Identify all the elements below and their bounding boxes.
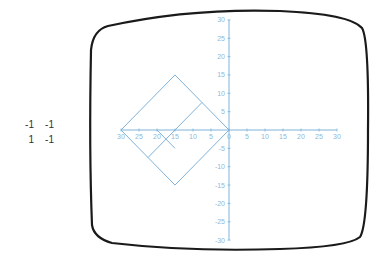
y-tick-label: -20 (215, 200, 225, 207)
crt-screen-plot: 3025201510505101520253030252015105-5-10-… (0, 0, 386, 259)
y-tick-label: -25 (215, 218, 225, 225)
y-tick-label: 10 (217, 90, 225, 97)
y-tick-label: 5 (221, 108, 225, 115)
x-tick-label: 10 (189, 133, 197, 140)
y-tick-label: 25 (217, 35, 225, 42)
x-tick-label: 25 (315, 133, 323, 140)
x-tick-label: 0 (227, 133, 231, 140)
y-tick-label: 30 (217, 16, 225, 23)
x-tick-label: 5 (245, 133, 249, 140)
y-tick-label: -30 (215, 237, 225, 244)
y-tick-label: 20 (217, 53, 225, 60)
x-tick-label: 15 (279, 133, 287, 140)
y-tick-label: -15 (215, 182, 225, 189)
x-tick-label: 25 (135, 133, 143, 140)
y-tick-label: -5 (219, 145, 225, 152)
x-tick-label: 15 (171, 133, 179, 140)
x-tick-label: 10 (261, 133, 269, 140)
x-tick-label: 20 (297, 133, 305, 140)
y-tick-label: 15 (217, 71, 225, 78)
x-tick-label: 5 (209, 133, 213, 140)
x-tick-label: 30 (333, 133, 341, 140)
x-tick-label: 20 (153, 133, 161, 140)
axes: 3025201510505101520253030252015105-5-10-… (117, 16, 341, 243)
y-tick-label: -10 (215, 163, 225, 170)
x-tick-label: 30 (117, 133, 125, 140)
